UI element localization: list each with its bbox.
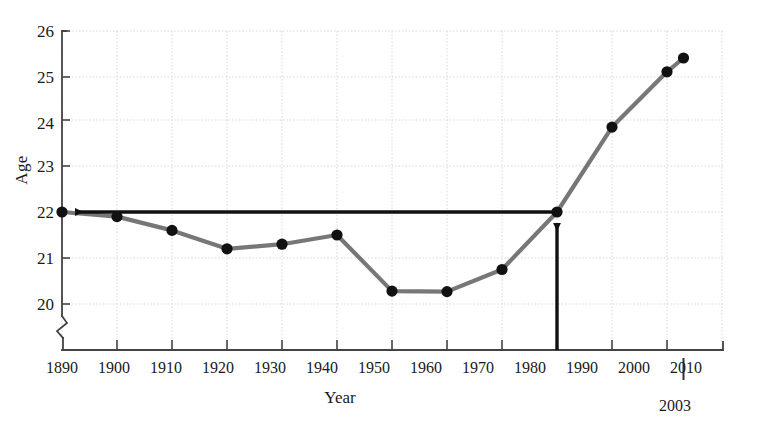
data-point <box>331 229 342 240</box>
grid-lines <box>62 31 723 350</box>
data-point <box>166 225 177 236</box>
y-axis-spine-upper <box>62 31 66 316</box>
data-point <box>221 243 232 254</box>
y-tick-label: 21 <box>14 250 54 267</box>
x-tick-label: 1960 <box>396 360 456 376</box>
x-tick-label: 1900 <box>84 360 144 376</box>
x-tick-label: 1920 <box>188 360 248 376</box>
data-point <box>678 52 689 63</box>
year-2003-annotation-label: 2003 <box>640 398 710 414</box>
chart-figure: Age Year 26 25 24 23 22 21 20 1890 1900 … <box>0 0 761 435</box>
y-axis-ticks <box>62 31 70 304</box>
x-tick-label: 1890 <box>32 360 92 376</box>
data-point <box>496 264 507 275</box>
y-tick-label: 22 <box>14 204 54 221</box>
y-tick-label: 24 <box>14 115 54 132</box>
data-line-age <box>62 58 684 292</box>
x-tick-label: 1940 <box>292 360 352 376</box>
y-tick-label: 25 <box>14 69 54 86</box>
data-point <box>606 122 617 133</box>
data-point <box>441 286 452 297</box>
x-tick-label: 1980 <box>500 360 560 376</box>
y-tick-label: 23 <box>14 158 54 175</box>
data-point <box>56 206 67 217</box>
y-tick-label: 26 <box>14 23 54 40</box>
x-tick-label: 1970 <box>448 360 508 376</box>
x-tick-label: 2000 <box>604 360 664 376</box>
data-point <box>386 286 397 297</box>
x-axis-title: Year <box>0 388 680 408</box>
data-point <box>276 239 287 250</box>
x-tick-label: 1990 <box>552 360 612 376</box>
data-markers <box>56 52 689 297</box>
x-tick-label: 1930 <box>240 360 300 376</box>
x-tick-label: 1910 <box>136 360 196 376</box>
clipped-title-remnant <box>0 0 761 3</box>
x-axis-ticks <box>117 340 667 350</box>
x-tick-label: 2010 <box>656 360 716 376</box>
data-point <box>661 66 672 77</box>
y-tick-label: 20 <box>14 296 54 313</box>
x-tick-label: 1950 <box>344 360 404 376</box>
axis-spines <box>57 31 723 350</box>
